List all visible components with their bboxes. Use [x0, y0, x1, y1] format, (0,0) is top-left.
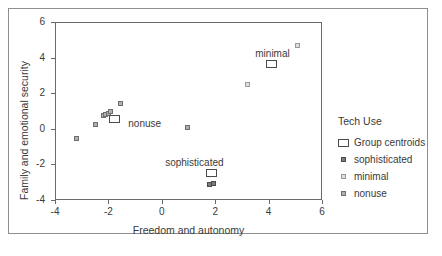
legend-item-label: minimal [354, 171, 388, 182]
data-point-nonuse [185, 125, 190, 130]
x-tick-mark [269, 200, 270, 204]
y-tick-mark [51, 58, 55, 59]
legend-item-nonuse[interactable]: nonuse [338, 185, 433, 202]
data-point-nonuse [74, 136, 79, 141]
legend-marker-icon [338, 139, 354, 147]
centroid-marker-nonuse [109, 115, 120, 123]
data-point-nonuse [118, 101, 123, 106]
x-tick-label: 2 [204, 206, 226, 217]
y-tick-label: 6 [23, 16, 45, 27]
centroid-label-minimal: minimal [255, 48, 289, 59]
legend-item-sophisticated[interactable]: sophisticated [338, 151, 433, 168]
legend-item-group-centroids[interactable]: Group centroids [338, 134, 433, 151]
x-tick-mark [215, 200, 216, 204]
legend-items: Group centroidssophisticatedminimalnonus… [338, 134, 433, 202]
y-tick-label: -2 [23, 158, 45, 169]
x-tick-label: -4 [44, 206, 66, 217]
data-point-sophisticated [211, 181, 216, 186]
legend-marker-icon [338, 157, 354, 162]
legend-item-label: Group centroids [354, 137, 425, 148]
x-tick-label: 0 [151, 206, 173, 217]
y-tick-label: 0 [23, 123, 45, 134]
legend: Tech Use Group centroidssophisticatedmin… [338, 115, 433, 202]
x-tick-mark [55, 200, 56, 204]
legend-title: Tech Use [338, 115, 433, 127]
chart-figure: Family and emotional security -4-20246-4… [0, 0, 442, 256]
y-tick-label: 2 [23, 87, 45, 98]
legend-marker-icon [338, 174, 354, 179]
legend-item-minimal[interactable]: minimal [338, 168, 433, 185]
centroid-marker-sophisticated [206, 169, 217, 177]
x-tick-label: -2 [97, 206, 119, 217]
y-tick-label: 4 [23, 52, 45, 63]
centroid-label-nonuse: nonuse [128, 118, 161, 129]
y-tick-mark [51, 164, 55, 165]
x-axis-label: Freedom and autonomy [55, 224, 322, 236]
data-point-minimal [245, 82, 250, 87]
data-point-minimal [295, 43, 300, 48]
x-tick-label: 6 [311, 206, 333, 217]
centroid-marker-minimal [266, 60, 277, 68]
legend-marker-icon [338, 191, 354, 196]
y-tick-label: -4 [23, 194, 45, 205]
data-point-nonuse [108, 109, 113, 114]
x-tick-mark [322, 200, 323, 204]
x-tick-label: 4 [258, 206, 280, 217]
legend-item-label: sophisticated [354, 154, 412, 165]
y-tick-mark [51, 129, 55, 130]
data-point-nonuse [93, 122, 98, 127]
legend-item-label: nonuse [354, 188, 387, 199]
x-tick-mark [162, 200, 163, 204]
x-tick-mark [108, 200, 109, 204]
y-tick-mark [51, 93, 55, 94]
y-tick-mark [51, 22, 55, 23]
centroid-label-sophisticated: sophisticated [165, 157, 223, 168]
